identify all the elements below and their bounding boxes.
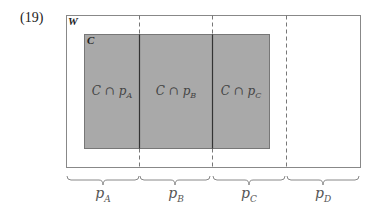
brace-pd (287, 176, 359, 185)
outer-set-label: W (68, 15, 78, 27)
partition-label-c: pC (241, 185, 257, 204)
partition-braces (67, 176, 359, 185)
partition-label-b: pB (168, 185, 184, 204)
region-label-c: C ∩ pC (221, 84, 262, 100)
partition-label-d: pD (315, 185, 331, 204)
brace-pa (67, 176, 139, 185)
partition-label-a: pA (95, 185, 110, 204)
set-diagram (0, 0, 379, 208)
inner-set-label: C (87, 34, 94, 46)
region-label-b: C ∩ pB (156, 84, 196, 100)
brace-pc (213, 176, 285, 185)
region-label-a: C ∩ pA (92, 84, 132, 100)
brace-pb (140, 176, 210, 185)
